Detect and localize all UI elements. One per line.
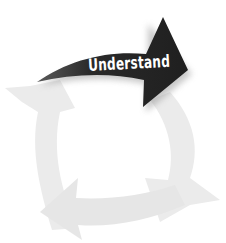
arrow-label-understand: Understand <box>88 51 171 75</box>
cycle-diagram: Understand <box>0 0 226 243</box>
